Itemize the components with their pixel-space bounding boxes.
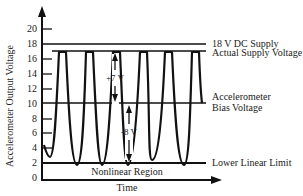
nonlinear-region-label: Nonlinear Region: [91, 166, 162, 177]
tick-2: 2: [32, 157, 37, 168]
tick-20: 20: [27, 23, 37, 34]
clipped-signal-curve: [44, 52, 202, 165]
tick-0: 0: [32, 172, 37, 183]
tick-18: 18: [27, 38, 37, 49]
y-axis-arrow-icon: [38, 6, 46, 17]
accelerometer-clipping-diagram: 20 18 16 14 12 10 8 6 4 2 0 Acceleromete…: [0, 0, 303, 196]
x-axis-title: Time: [117, 182, 138, 193]
tick-16: 16: [27, 53, 37, 64]
tick-6: 6: [32, 127, 37, 138]
actual-supply-label: Actual Supply Voltage: [212, 47, 303, 58]
minus-8v-label: -8 V: [121, 127, 138, 137]
tick-14: 14: [27, 68, 37, 79]
y-ticks: [42, 29, 52, 148]
y-axis-title: Accelerometer Output Voltage: [4, 45, 15, 167]
y-tick-labels: 20 18 16 14 12 10 8 6 4 2 0: [27, 23, 37, 183]
x-axis-arrow-icon: [211, 176, 222, 184]
lower-limit-label: Lower Linear Limit: [212, 157, 292, 168]
bias-label-line1: Accelerometer: [212, 91, 272, 102]
reference-labels: 18 V DC Supply Actual Supply Voltage Acc…: [212, 38, 303, 168]
tick-12: 12: [27, 83, 37, 94]
tick-10: 10: [27, 98, 37, 109]
bias-label-line2: Bias Voltage: [212, 102, 263, 113]
tick-4: 4: [32, 142, 37, 153]
tick-8: 8: [32, 113, 37, 124]
plus-7v-label: +7 V: [106, 73, 125, 83]
